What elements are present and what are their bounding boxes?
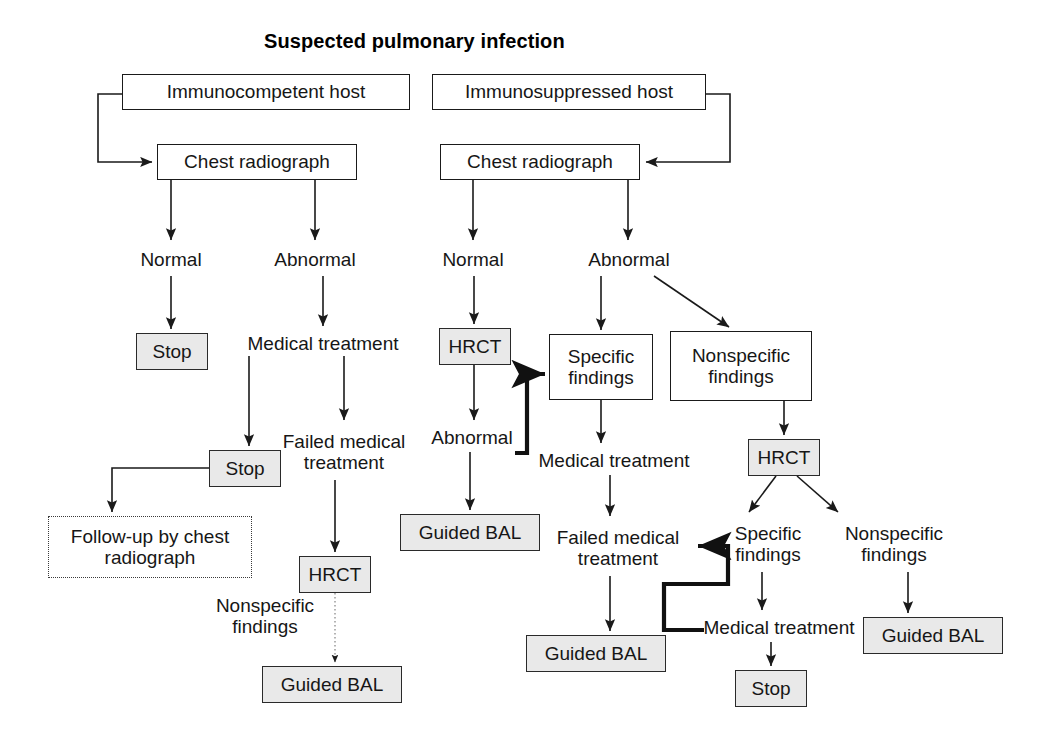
node-chest-radiograph: Chest radiograph	[440, 144, 640, 180]
node-guided-bal: Guided BAL	[526, 635, 666, 672]
node-stop: Stop	[136, 333, 208, 370]
node-guided-bal: Guided BAL	[262, 666, 402, 703]
node-follow-up-by-chest-radiograph: Follow-up by chest radiograph	[48, 516, 252, 578]
flowchart-canvas: Suspected pulmonary infection	[0, 0, 1053, 740]
node-immunocompetent-host: Immunocompetent host	[122, 74, 410, 110]
node-hrct: HRCT	[439, 328, 511, 365]
edge-hrct3-to-specific	[749, 476, 776, 512]
node-abnormal: Abnormal	[260, 246, 370, 274]
node-failed-medical-treatment: Failed medical treatment	[274, 424, 414, 480]
node-stop: Stop	[735, 670, 807, 707]
node-specific-findings: Specific findings	[549, 334, 653, 400]
node-specific-findings: Specific findings	[716, 516, 820, 572]
node-normal: Normal	[427, 246, 519, 274]
node-normal: Normal	[125, 246, 217, 274]
node-nonspecific-findings: Nonspecific findings	[828, 516, 960, 572]
node-guided-bal: Guided BAL	[400, 514, 540, 551]
edge-hrct3-to-nonspecific	[797, 476, 838, 512]
node-abnormal: Abnormal	[417, 424, 527, 452]
node-chest-radiograph: Chest radiograph	[157, 144, 357, 180]
connectors-heavy	[515, 374, 728, 630]
node-guided-bal: Guided BAL	[863, 617, 1003, 654]
node-hrct: HRCT	[748, 439, 820, 476]
node-nonspecific-findings: Nonspecific findings	[670, 331, 812, 401]
node-immunosuppressed-host: Immunosuppressed host	[432, 74, 706, 110]
node-medical-treatment: Medical treatment	[519, 447, 709, 475]
node-abnormal: Abnormal	[574, 246, 684, 274]
node-medical-treatment: Medical treatment	[693, 614, 865, 642]
edge-stop-to-followup	[112, 468, 209, 512]
node-medical-treatment: Medical treatment	[228, 330, 418, 358]
node-nonspecific-findings: Nonspecific findings	[205, 588, 325, 644]
node-stop: Stop	[209, 450, 281, 487]
edge-abnormal2-to-nonspecific	[654, 276, 729, 327]
node-failed-medical-treatment: Failed medical treatment	[548, 520, 688, 576]
